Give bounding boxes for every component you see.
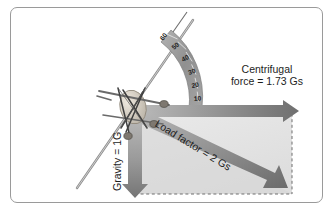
centrifugal-line-1: Centrifugal (215, 64, 319, 76)
force-diagram: 60 50 40 30 20 10 (11, 8, 323, 203)
figure-frame: 60 50 40 30 20 10 (10, 7, 323, 203)
centrifugal-line-2: force = 1.73 Gs (215, 76, 319, 88)
bank-angle-protractor: 60 50 40 30 20 10 (158, 12, 202, 114)
label-gravity: Gravity = 1G (112, 132, 124, 191)
label-centrifugal-force: Centrifugal force = 1.73 Gs (215, 64, 319, 88)
figure-root: 60 50 40 30 20 10 (0, 0, 335, 219)
tick-10: 10 (194, 94, 202, 102)
